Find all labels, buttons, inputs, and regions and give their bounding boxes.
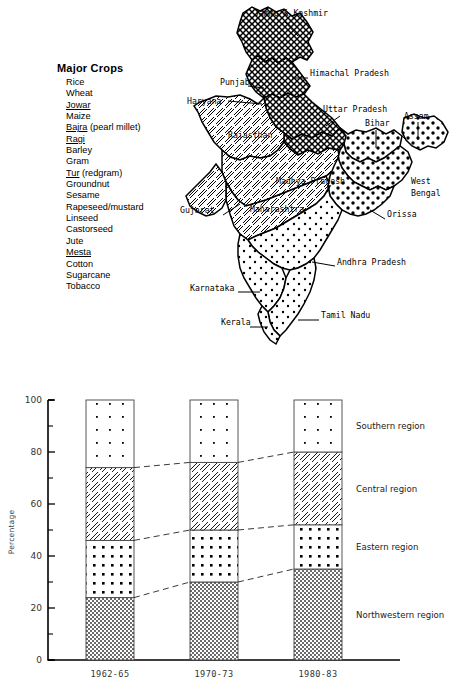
y-tick-label: 40 (31, 551, 43, 561)
connector-line (134, 462, 190, 467)
bar-segment (190, 400, 238, 462)
crop-list-item: Maize (66, 111, 197, 122)
crop-name: Jowar (66, 100, 91, 110)
connector-line (238, 569, 294, 582)
bar-segment (294, 569, 342, 660)
bar-segment (294, 452, 342, 525)
crop-list-item: Castorseed (66, 224, 197, 235)
crop-list-item: Tobacco (66, 281, 197, 292)
regional-share-stacked-bar-chart: 020406080100 1962-651970-731980-83 South… (0, 372, 464, 691)
x-tick-label: 1970-73 (194, 669, 233, 679)
crop-name: Mesta (66, 247, 91, 257)
crop-name: Rapeseed/mustard (66, 202, 144, 212)
map-label-rajasthan: Rajasthan (228, 130, 272, 140)
map-label-bihar: Bihar (365, 118, 390, 128)
crop-name-suffix: (pearl millet) (87, 122, 140, 132)
bar-segment (190, 582, 238, 660)
y-axis-title: Percentage (7, 510, 16, 555)
map-label-punjab: Punjab (220, 77, 250, 87)
crop-name: Maize (66, 111, 91, 121)
legend-label-central: Central region (356, 484, 417, 494)
crop-list-item: Groundnut (66, 179, 197, 190)
region-eastern (328, 114, 448, 216)
bar-segment (86, 468, 134, 541)
legend-label-eastern: Eastern region (356, 542, 419, 552)
stacked-bar (294, 400, 342, 660)
crop-name: Wheat (66, 88, 93, 98)
major-crops-items: RiceWheatJowarMaizeBajra (pearl millet)R… (57, 77, 197, 293)
x-axis-labels: 1962-651970-731980-83 (90, 669, 337, 679)
map-label-uttar-pradesh: Uttar Pradesh (323, 104, 387, 114)
x-tick-label: 1962-65 (90, 669, 129, 679)
map-label-orissa: Orissa (387, 209, 417, 219)
map-label-bengal: Bengal (411, 188, 441, 198)
crop-name-suffix: (redgram) (79, 168, 122, 178)
crop-name: Rice (66, 77, 84, 87)
map-label-karnataka: Karnataka (190, 283, 234, 293)
map-label-madhya-pradesh: Madhya Pradesh (276, 176, 345, 186)
y-tick-label: 80 (31, 447, 43, 457)
crop-list-item: Sesame (66, 190, 197, 201)
bar-segment (190, 530, 238, 582)
map-label-himachal: Himachal Pradesh (310, 68, 389, 78)
map-label-jammu-kashmir: Jammu & Kashmir (254, 8, 328, 18)
crop-list-item: Bajra (pearl millet) (66, 122, 197, 133)
crop-list-item: Sugarcane (66, 270, 197, 281)
map-label-assam: Assam (404, 111, 429, 121)
bar-segment (190, 462, 238, 530)
map-label-andhra-pradesh: Andhra Pradesh (337, 257, 406, 267)
map-label-maharashtra: Maharashtra (250, 204, 304, 214)
crop-name: Sugarcane (66, 270, 110, 280)
bar-segment (294, 400, 342, 452)
crop-name: Gram (66, 156, 89, 166)
crop-name: Linseed (66, 213, 98, 223)
major-crops-title: Major Crops (57, 62, 197, 74)
crop-list-item: Jute (66, 236, 197, 247)
x-tick-label: 1980-83 (298, 669, 337, 679)
chart-legend: Southern regionCentral regionEastern reg… (356, 421, 444, 620)
legend-label-northwestern: Northwestern region (356, 610, 444, 620)
connector-line (238, 452, 294, 462)
bar-group (86, 400, 342, 660)
connector-line (238, 525, 294, 530)
crop-list-item: Barley (66, 145, 197, 156)
crop-list-item: Mesta (66, 247, 197, 258)
bar-segment (86, 598, 134, 660)
connector-line (134, 582, 190, 598)
bar-segment (86, 540, 134, 597)
crop-name: Barley (66, 145, 92, 155)
crop-name: Bajra (66, 122, 87, 132)
stacked-bar (190, 400, 238, 660)
crop-name: Groundnut (66, 179, 109, 189)
bar-segment (294, 525, 342, 569)
major-crops-legend: Major Crops RiceWheatJowarMaizeBajra (pe… (57, 62, 197, 293)
crop-name: Jute (66, 236, 83, 246)
map-label-gujarat: Gujarat (180, 205, 215, 215)
crop-name: Castorseed (66, 224, 113, 234)
crop-list-item: Ragi (66, 134, 197, 145)
crop-name: Tobacco (66, 281, 100, 291)
y-tick-label: 20 (31, 603, 43, 613)
crop-list-item: Gram (66, 156, 197, 167)
crop-name: Tur (66, 168, 79, 178)
crop-list-item: Jowar (66, 100, 197, 111)
legend-label-southern: Southern region (356, 421, 425, 431)
map-label-haryana: Haryana (187, 96, 222, 106)
map-label-west: West (411, 176, 431, 186)
connector-line (134, 530, 190, 540)
y-axis-ticks: 020406080100 (25, 395, 55, 665)
crop-name: Sesame (66, 190, 100, 200)
y-tick-label: 100 (25, 395, 42, 405)
crop-list-item: Rapeseed/mustard (66, 202, 197, 213)
map-label-tamil-nadu: Tamil Nadu (321, 310, 370, 320)
india-crop-regions-map: Jammu & KashmirHimachal PradeshPunjabHar… (180, 0, 464, 362)
stacked-bar (86, 400, 134, 660)
crop-list-item: Linseed (66, 213, 197, 224)
crop-name: Ragi (66, 134, 85, 144)
map-label-kerala: Kerala (221, 317, 251, 327)
crop-list-item: Tur (redgram) (66, 168, 197, 179)
y-tick-label: 0 (36, 655, 42, 665)
y-tick-label: 60 (31, 499, 43, 509)
crop-list-item: Cotton (66, 259, 197, 270)
crop-list-item: Rice (66, 77, 197, 88)
